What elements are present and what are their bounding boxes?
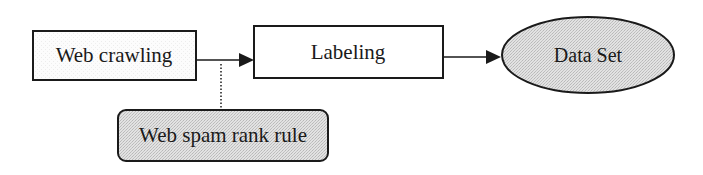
- data-set-label: Data Set: [554, 44, 623, 66]
- node-data-set: Data Set: [502, 17, 674, 93]
- labeling-label: Labeling: [311, 40, 386, 64]
- arrowhead-icon: [239, 53, 254, 67]
- node-labeling: Labeling: [254, 26, 443, 78]
- node-web-spam-rank-rule: Web spam rank rule: [118, 110, 328, 161]
- edge-crawling-to-labeling: [196, 53, 254, 67]
- arrowhead-icon: [486, 50, 501, 64]
- web-spam-rank-rule-label: Web spam rank rule: [139, 123, 307, 147]
- node-web-crawling: Web crawling: [33, 31, 196, 80]
- web-crawling-label: Web crawling: [56, 43, 173, 67]
- edge-labeling-to-dataset: [443, 50, 501, 64]
- flow-diagram: Web crawling Labeling Data Set Web spam …: [0, 0, 703, 175]
